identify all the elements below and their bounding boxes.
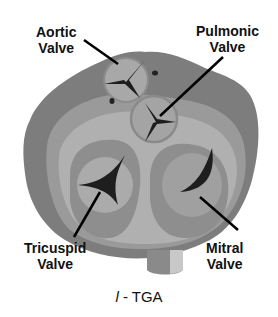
label-line: Tricuspid [24, 240, 86, 256]
coronary-ostium [110, 98, 115, 104]
diagram-caption: l - TGA [0, 288, 278, 305]
heart-valve-diagram: Aortic Valve Pulmonic Valve Tricuspid Va… [0, 0, 278, 317]
pulmonic-valve [131, 96, 177, 142]
label-line: Aortic [36, 24, 76, 40]
label-line: Valve [206, 256, 243, 272]
caption-suffix: - TGA [119, 288, 163, 305]
pulmonic-valve-label: Pulmonic Valve [196, 23, 259, 55]
label-line: Pulmonic [196, 23, 259, 39]
label-line: Valve [24, 256, 86, 272]
label-line: Valve [196, 39, 259, 55]
tricuspid-valve-label: Tricuspid Valve [24, 240, 86, 272]
aortic-valve-label: Aortic Valve [36, 24, 76, 56]
coronary-ostium [152, 71, 158, 76]
mitral-valve-label: Mitral Valve [206, 240, 243, 272]
label-line: Valve [36, 40, 76, 56]
aortic-valve [104, 58, 148, 102]
aortic-leader-line [84, 40, 118, 64]
label-line: Mitral [206, 240, 243, 256]
